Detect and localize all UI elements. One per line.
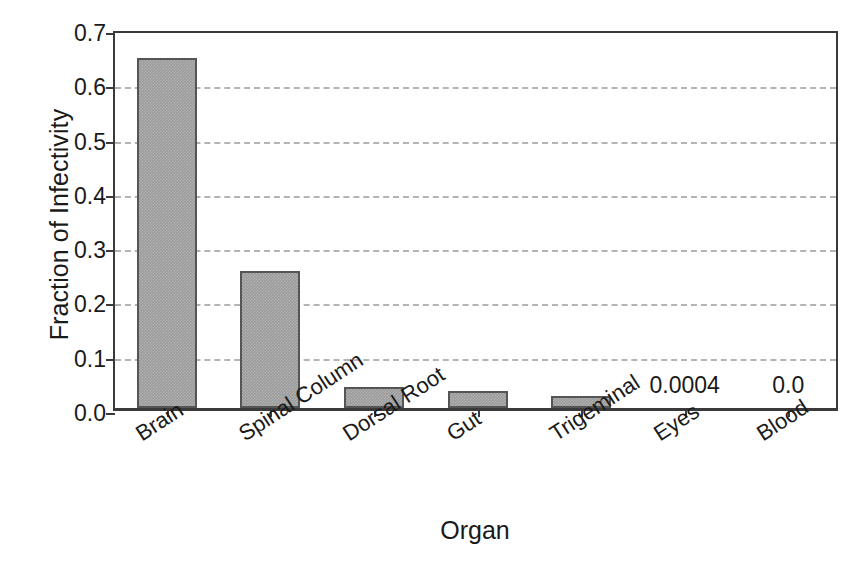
bar [137,58,197,408]
gridline [115,196,836,198]
y-axis-tick-mark [106,87,115,89]
y-axis-tick-mark [106,33,115,35]
y-axis-tick-label: 0.3 [74,237,106,264]
gridline [115,359,836,361]
y-axis-tick-mark [106,413,115,415]
y-axis-tick-mark [106,250,115,252]
y-axis-title: Fraction of Infectivity [45,65,74,385]
y-axis-tick-mark [106,196,115,198]
y-axis-tick-label: 0.0 [74,400,106,427]
gridline [115,87,836,89]
y-axis-tick-label: 0.5 [74,128,106,155]
y-axis-tick-label: 0.1 [74,345,106,372]
bar [448,391,508,408]
gridline [115,142,836,144]
y-axis-tick-label: 0.2 [74,291,106,318]
gridline [115,304,836,306]
y-axis-tick-label: 0.4 [74,182,106,209]
y-axis-tick-mark [106,142,115,144]
bar-value-label: 0.0004 [649,372,719,399]
y-axis-tick-mark [106,304,115,306]
gridline [115,250,836,252]
bar-chart-figure: Fraction of Infectivity 0.00.10.20.30.40… [0,0,864,566]
y-axis-tick-label: 0.6 [74,74,106,101]
y-axis-tick-label: 0.7 [74,20,106,47]
y-axis-tick-mark [106,359,115,361]
x-axis-title: Organ [355,516,595,545]
plot-area: 0.00.10.20.30.40.50.60.7 0.00040.0 [113,31,838,411]
